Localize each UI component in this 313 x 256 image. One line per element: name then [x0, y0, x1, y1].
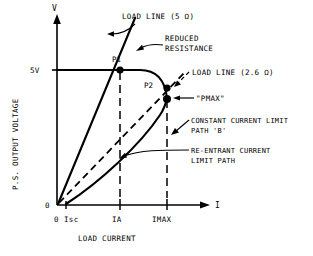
annotation-reduced-resistance-line1: REDUCED [165, 34, 199, 43]
leader-arrowhead-load-line-5ohm [107, 31, 114, 37]
point-marker-pmax [163, 95, 171, 103]
leader-reduced-resistance [141, 44, 163, 48]
diagram-canvas: V I 5V 0 0 Isc IA IMAX LOAD CURRENT P.S.… [0, 0, 313, 256]
load-line-5ohm-curve [58, 18, 135, 204]
annotation-load-line-5ohm: LOAD LINE (5 Ω) [122, 12, 194, 21]
x-tick-label-isc: Isc [64, 215, 78, 224]
x-axis-symbol: I [215, 201, 220, 210]
y-axis-title: P.S. OUTPUT VOLTAGE [11, 98, 20, 190]
point-label-p1: P1 [112, 55, 121, 64]
x-axis-arrowhead [200, 201, 210, 208]
leader-arrowhead-load-line-2-6ohm [174, 81, 181, 88]
annotation-reentrant-line1: RE-ENTRANT CURRENT [191, 147, 271, 155]
y-axis-symbol: V [52, 4, 57, 13]
leader-constant-current-limit [176, 120, 189, 131]
y-axis-arrowhead [53, 14, 61, 24]
annotation-reduced-resistance-line2: RESISTANCE [165, 44, 213, 53]
point-marker-p1 [116, 66, 123, 73]
leader-reentrant [124, 150, 189, 156]
point-label-p2: P2 [144, 81, 153, 90]
y-origin-label: 0 [45, 201, 50, 210]
point-marker-p2 [163, 84, 170, 91]
y-tick-label-5v: 5V [30, 66, 40, 75]
x-axis-title: LOAD CURRENT [78, 234, 136, 243]
annotation-reentrant-line2: LIMIT PATH [191, 157, 235, 165]
x-tick-label-ia: IA [112, 215, 122, 224]
leader-arrowhead-pmax [173, 95, 180, 100]
annotation-pmax: "PMAX" [196, 94, 225, 103]
x-tick-label-0: 0 [54, 215, 59, 224]
annotation-constant-current-limit-line2: PATH 'B' [191, 127, 226, 135]
annotation-constant-current-limit-line1: CONSTANT CURRENT LIMIT [191, 117, 289, 125]
leader-arrowhead-reduced-resistance [136, 45, 144, 51]
x-tick-label-imax: IMAX [152, 215, 171, 224]
annotation-load-line-2-6ohm: LOAD LINE (2.6 Ω) [192, 68, 274, 77]
